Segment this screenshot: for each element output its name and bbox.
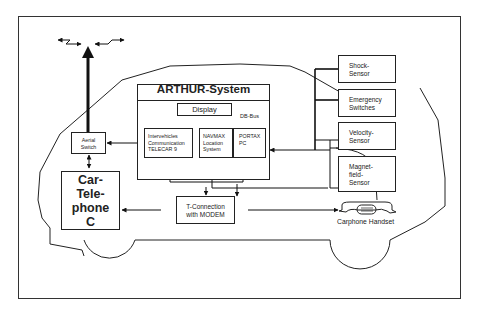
aerial-switch-label: Aerial Switch <box>72 137 105 150</box>
sensor-velocity-label: Velocity- Sensor <box>349 129 374 145</box>
sensor-velocity: Velocity- Sensor <box>338 122 396 150</box>
module-telecar: Intervehicles Communication TELECAR 9 <box>144 128 193 158</box>
antenna-icon <box>82 46 94 132</box>
aerial-switch-box: Aerial Switch <box>71 132 106 154</box>
carphone-handset-label: Carphone Handset <box>337 218 394 225</box>
arthur-system-title: ARTHUR-System <box>137 86 270 93</box>
sensor-emergency: Emergency Switches <box>338 89 396 117</box>
sensor-magnet: Magnet- field- Sensor <box>338 156 396 192</box>
t-connection-box: T-Connection with MODEM <box>176 196 235 224</box>
db-bus-label: DB-Bus <box>240 113 259 120</box>
module-portax: PORTAX PC <box>233 128 266 158</box>
radio-wave-icon <box>58 40 124 44</box>
arthur-title-divider <box>137 100 270 101</box>
display-box: Display <box>177 103 232 116</box>
module-navmax: NAVMAX Location System <box>199 128 233 158</box>
car-telephone-label: Car- Tele- phone C <box>62 173 119 229</box>
module-telecar-label: Intervehicles Communication TELECAR 9 <box>148 133 185 153</box>
sensor-shock: Shock- Sensor <box>338 55 396 83</box>
sensor-shock-label: Shock- Sensor <box>349 62 370 78</box>
car-telephone-box: Car- Tele- phone C <box>61 171 120 230</box>
module-navmax-label: NAVMAX Location System <box>203 133 225 153</box>
sensor-emergency-label: Emergency Switches <box>349 96 382 112</box>
sensor-magnet-label: Magnet- field- Sensor <box>349 163 373 187</box>
display-label: Display <box>178 106 231 114</box>
module-portax-label: PORTAX PC <box>239 133 260 146</box>
t-connection-label: T-Connection with MODEM <box>177 203 234 219</box>
handset-icon <box>339 202 396 214</box>
